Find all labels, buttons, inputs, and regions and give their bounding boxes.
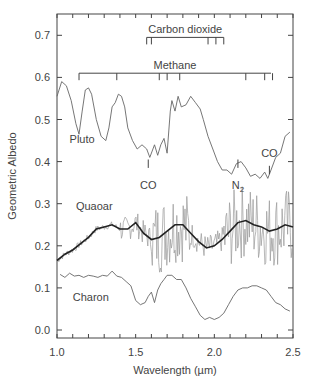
y-tick-label: 0.4	[35, 156, 50, 168]
carbon-dioxide-label: Carbon dioxide	[148, 23, 222, 35]
x-tick-label: 1.0	[49, 346, 64, 358]
y-tick-label: 0.7	[35, 29, 50, 41]
y-tick-label: 0.5	[35, 114, 50, 126]
y-tick-label: 0.0	[35, 324, 50, 336]
methane-label: Methane	[154, 59, 197, 71]
x-tick-label: 1.5	[128, 346, 143, 358]
x-axis-title: Wavelength (µm)	[133, 364, 217, 376]
pluto-label: Pluto	[70, 133, 95, 145]
pluto-curve	[57, 82, 290, 179]
quaoar-label: Quaoar	[76, 200, 113, 212]
x-tick-label: 2.5	[285, 346, 300, 358]
co-marker-label: CO	[261, 147, 278, 159]
y-tick-label: 0.6	[35, 71, 50, 83]
charon-label: Charon	[73, 291, 109, 303]
y-tick-label: 0.1	[35, 282, 50, 294]
y-tick-label: 0.2	[35, 240, 50, 252]
co-marker-label: CO	[140, 179, 157, 191]
albedo-spectrum-chart: 1.01.52.02.5 0.00.10.20.30.40.50.60.7 Wa…	[0, 0, 313, 380]
absorption-band-brackets: Carbon dioxideMethane	[79, 23, 273, 80]
y-tick-label: 0.3	[35, 198, 50, 210]
line-markers: CON2CO	[140, 147, 278, 193]
n2-marker-subscript: 2	[240, 185, 245, 194]
y-axis-title: Geometric Albedo	[6, 132, 18, 219]
x-axis-tick-labels: 1.01.52.02.5	[49, 346, 300, 358]
curve-labels: PlutoQuaoarCharon	[70, 133, 113, 303]
y-axis-tick-labels: 0.00.10.20.30.40.50.60.7	[35, 29, 50, 336]
x-tick-label: 2.0	[207, 346, 222, 358]
